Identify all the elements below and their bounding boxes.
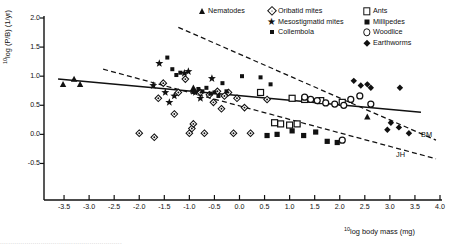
legend-column-2: Oribatid mites ★ Mesostigmatid mites Col… (266, 6, 344, 38)
x-tick-label: 1.0 (276, 203, 304, 211)
data-point-woodlice (357, 93, 363, 99)
legend-column-1: Nematodes (196, 6, 245, 17)
legend-item-collembola[interactable]: Collembola (266, 27, 344, 38)
data-point-nematodes (71, 76, 77, 82)
x-tick-label: -2.5 (100, 203, 128, 211)
y-tick-label: 0.5 (12, 101, 40, 109)
x-tick-label: 4.0 (426, 203, 450, 211)
data-point-oribatid-mites (182, 76, 189, 83)
square-open-icon (361, 6, 372, 16)
data-point-earthworms (397, 85, 403, 91)
data-point-oribatid-mites (201, 130, 208, 137)
data-point-ants (287, 122, 293, 128)
data-point-collembola (220, 81, 224, 85)
data-point-mesostigmatid-mites (155, 59, 163, 67)
x-tick-label: -3.0 (75, 203, 103, 211)
legend-item-label: Earthworms (372, 38, 411, 49)
data-point-earthworms (388, 120, 394, 126)
data-point-collembola (224, 89, 228, 93)
trendline-label-jh: JH (396, 150, 405, 159)
x-tick-label: 3.5 (401, 203, 429, 211)
legend-item-label: Woodlice (372, 27, 402, 38)
data-point-oribatid-mites (247, 130, 254, 137)
y-axis-label-exponent: 10 (2, 58, 8, 64)
data-point-woodlice (323, 100, 329, 106)
x-tick-label: 2.0 (326, 203, 354, 211)
data-point-mesostigmatid-mites (208, 74, 216, 82)
data-point-oribatid-mites (155, 95, 162, 102)
legend-item-millipedes[interactable]: Millipedes (361, 17, 411, 28)
data-point-oribatid-mites (218, 105, 225, 112)
data-point-earthworms (396, 124, 402, 130)
x-tick-label: 3.0 (376, 203, 404, 211)
data-point-earthworms (384, 127, 390, 133)
triangle-filled-icon (196, 6, 207, 16)
data-point-oribatid-mites (230, 130, 237, 137)
legend-item-label: Millipedes (372, 17, 405, 28)
data-point-collembola (216, 94, 220, 98)
x-tick-label: 2.5 (351, 203, 379, 211)
data-point-collembola (165, 56, 169, 60)
legend-item-mesostigmatid-mites[interactable]: ★ Mesostigmatid mites (266, 17, 344, 28)
y-tick-label: 1.0 (12, 72, 40, 80)
data-point-oribatid-mites (241, 104, 248, 111)
legend: Nematodes Oribatid mites ★ Mesostigmatid… (196, 6, 448, 52)
x-tick-label: 1.5 (301, 203, 329, 211)
legend-item-ants[interactable]: Ants (361, 6, 411, 17)
data-point-ants (258, 89, 264, 95)
data-point-earthworms (351, 78, 357, 84)
data-point-nematodes (60, 81, 66, 87)
y-tick-label: -0.5 (12, 159, 40, 167)
data-point-collembola (170, 67, 174, 71)
y-tick-label: 0.0 (12, 130, 40, 138)
data-point-millipedes (264, 133, 269, 138)
legend-item-label: Oribatid mites (277, 6, 322, 17)
data-point-collembola (196, 87, 200, 91)
x-tick-label: 0.5 (251, 203, 279, 211)
data-point-oribatid-mites (160, 80, 167, 87)
x-axis-label: 10log body mass (mg) (344, 226, 415, 236)
legend-item-label: Nematodes (207, 6, 245, 17)
data-point-collembola (259, 75, 263, 79)
data-point-collembola (204, 86, 208, 90)
data-point-collembola (208, 92, 212, 96)
x-tick-label: -1.5 (150, 203, 178, 211)
data-point-nematodes (364, 114, 370, 120)
data-point-woodlice (341, 102, 347, 108)
legend-column-3: Ants Millipedes Woodlice Earthworms (361, 6, 411, 48)
legend-item-woodlice[interactable]: Woodlice (361, 27, 411, 38)
data-point-mesostigmatid-mites (165, 98, 173, 106)
legend-item-oribatid-mites[interactable]: Oribatid mites (266, 6, 344, 17)
x-tick-label: -1.0 (175, 203, 203, 211)
data-point-millipedes (301, 133, 306, 138)
data-point-collembola (212, 90, 216, 94)
legend-item-label: Ants (372, 6, 387, 17)
data-point-millipedes (325, 139, 330, 144)
legend-item-nematodes[interactable]: Nematodes (196, 6, 245, 17)
y-tick-label: 1.5 (12, 43, 40, 51)
data-point-collembola (200, 89, 204, 93)
data-point-collembola (174, 73, 178, 77)
data-point-oribatid-mites (171, 111, 178, 118)
diamond-open-dot-icon (266, 6, 277, 16)
circle-open-icon (361, 27, 372, 37)
x-tick-label: -3.5 (50, 203, 78, 211)
legend-item-earthworms[interactable]: Earthworms (361, 38, 411, 49)
data-point-millipedes (313, 129, 318, 134)
data-point-earthworms (358, 82, 364, 88)
data-point-ants (294, 121, 300, 127)
x-tick-label: 0.0 (225, 203, 253, 211)
figure-caption: ........................................… (0, 238, 450, 246)
data-point-woodlice (368, 101, 374, 107)
x-tick-label: -0.5 (200, 203, 228, 211)
data-point-woodlice (308, 96, 314, 102)
data-point-collembola (240, 74, 244, 78)
data-point-ants (278, 121, 284, 127)
square-filled-icon (361, 17, 372, 27)
star-filled-icon: ★ (266, 17, 277, 27)
data-point-millipedes (290, 128, 295, 133)
data-point-ants (272, 120, 278, 126)
data-point-woodlice (339, 137, 345, 143)
figure-scatter-plot: 10log (P/B) (1/yr) 10log body mass (mg) … (0, 0, 450, 246)
data-point-millipedes (274, 132, 279, 137)
